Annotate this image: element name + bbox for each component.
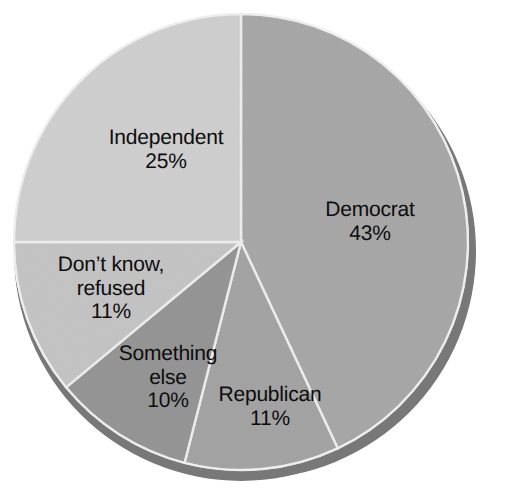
paper-grain-overlay — [14, 14, 468, 470]
pie-chart: Independent 25% Democrat 43% Don’t know,… — [0, 0, 508, 489]
pie-chart-canvas — [0, 0, 508, 489]
